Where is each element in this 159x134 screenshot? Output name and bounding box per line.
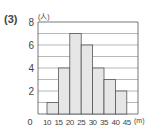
origin-label: 0 (27, 117, 32, 127)
histogram-bar (115, 91, 126, 114)
y-tick-label: 6 (28, 40, 34, 51)
histogram-bar (70, 34, 81, 115)
histogram-bar (104, 80, 115, 115)
y-tick-label: 8 (28, 17, 34, 28)
x-tick-label: 25 (77, 118, 86, 127)
y-tick-label: 2 (28, 86, 34, 97)
histogram: 246801015202530354045 (0, 0, 159, 134)
x-tick-label: 10 (43, 118, 52, 127)
histogram-bar (81, 45, 92, 114)
x-tick-label: 15 (54, 118, 63, 127)
histogram-bar (58, 68, 69, 114)
x-tick-label: 35 (100, 118, 109, 127)
x-tick-label: 20 (66, 118, 75, 127)
x-tick-label: 45 (123, 118, 132, 127)
y-tick-label: 4 (28, 63, 34, 74)
x-tick-label: 40 (111, 118, 120, 127)
histogram-bar (93, 68, 104, 114)
histogram-bar (47, 103, 58, 115)
x-tick-label: 30 (89, 118, 98, 127)
